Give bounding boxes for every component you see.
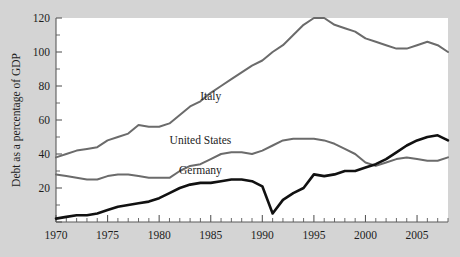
x-tick-label: 1990	[251, 229, 274, 241]
y-tick-label: 60	[39, 114, 51, 126]
series-label-italy: Italy	[200, 90, 221, 103]
debt-to-gdp-line-chart: 20406080100120 1970197519801985199019952…	[0, 0, 460, 257]
y-tick-label: 40	[39, 148, 51, 160]
chart-figure: 20406080100120 1970197519801985199019952…	[0, 0, 460, 257]
x-tick-label: 1970	[45, 229, 68, 241]
x-tick-label: 1995	[302, 229, 325, 241]
y-tick-label: 120	[33, 12, 51, 24]
x-tick-label: 1985	[199, 229, 222, 241]
y-tick-label: 80	[39, 80, 51, 92]
plot-area-background	[56, 18, 448, 222]
y-axis-title: Debt as a percentage of GDP	[10, 53, 23, 187]
x-tick-label: 2005	[406, 229, 429, 241]
series-label-germany: Germany	[179, 164, 222, 177]
y-tick-label: 100	[33, 46, 51, 58]
series-label-united-states: United States	[170, 134, 232, 146]
x-tick-label: 2000	[354, 229, 377, 241]
x-tick-label: 1975	[96, 229, 119, 241]
x-tick-label: 1980	[148, 229, 171, 241]
y-tick-label: 20	[39, 182, 51, 194]
